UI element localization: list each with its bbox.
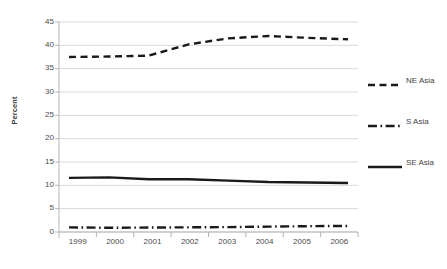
- legend-swatch-solid-icon: [368, 158, 402, 168]
- x-tick-label: 2004: [245, 238, 285, 246]
- chart-legend: NE AsiaS AsiaSE Asia: [368, 74, 447, 170]
- legend-swatch-dashed-icon: [368, 76, 402, 86]
- x-axis-tick-labels: 19992000200120022003200420052006: [59, 238, 358, 258]
- x-tick-label: 2006: [319, 238, 359, 246]
- x-tick-label: 2000: [95, 238, 135, 246]
- axis-lines: [59, 22, 358, 239]
- legend-item-s-asia[interactable]: S Asia: [368, 115, 429, 129]
- series-line-ne-asia: [69, 36, 348, 57]
- legend-label: SE Asia: [406, 159, 434, 167]
- series-line-s-asia: [69, 226, 348, 228]
- series-line-se-asia: [69, 177, 348, 183]
- x-tick-label: 1999: [58, 238, 98, 246]
- x-tick-label: 2005: [282, 238, 322, 246]
- data-series-layer: [69, 36, 348, 228]
- legend-swatch-dash-dot-icon: [368, 117, 402, 127]
- legend-item-ne-asia[interactable]: NE Asia: [368, 74, 434, 88]
- x-tick-label: 2001: [132, 238, 172, 246]
- legend-label: NE Asia: [406, 77, 434, 85]
- legend-item-se-asia[interactable]: SE Asia: [368, 156, 434, 170]
- legend-label: S Asia: [406, 118, 429, 126]
- x-axis-tick-marks: [55, 22, 358, 237]
- x-tick-label: 2003: [207, 238, 247, 246]
- x-tick-label: 2002: [170, 238, 210, 246]
- line-chart: Percent 051015202530354045 1999200020012…: [0, 0, 447, 269]
- gridlines: [59, 22, 358, 232]
